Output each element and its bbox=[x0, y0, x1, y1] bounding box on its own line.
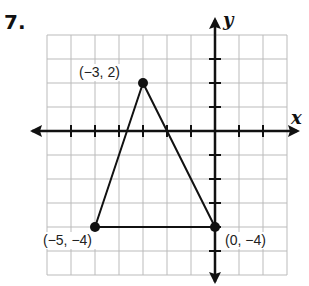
y-axis-label: y bbox=[222, 9, 235, 30]
data-point bbox=[90, 222, 100, 232]
data-point bbox=[138, 78, 148, 88]
data-point bbox=[210, 222, 220, 232]
point-label: (−3, 2) bbox=[79, 64, 120, 80]
point-label: (−5, −4) bbox=[43, 232, 92, 248]
x-axis-label: x bbox=[290, 107, 302, 128]
point-label: (0, −4) bbox=[225, 232, 266, 248]
coordinate-plane: xy(−3, 2)(−5, −4)(0, −4) bbox=[0, 0, 309, 286]
